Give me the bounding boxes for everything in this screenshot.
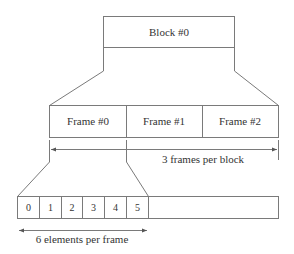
element-2: 2 [70,202,75,213]
elements-strip: 0 1 2 3 4 5 [18,197,279,219]
frame-label-0: Frame #0 [67,115,109,127]
block-label: Block #0 [149,26,190,38]
element-3: 3 [91,202,96,213]
frames-per-block-dimension: 3 frames per block [50,140,279,165]
frame-expansion-lines [18,140,149,197]
frames-per-block-label: 3 frames per block [162,153,245,165]
element-4: 4 [113,202,118,213]
frames-row: Frame #0 Frame #1 Frame #2 [50,106,279,138]
elements-per-frame-dimension: 6 elements per frame [19,231,147,246]
element-5: 5 [135,202,140,213]
element-0: 0 [26,202,31,213]
block-expansion-lines [50,48,279,106]
frame-label-1: Frame #1 [143,115,185,127]
elements-per-frame-label: 6 elements per frame [36,233,129,245]
frame-label-2: Frame #2 [219,115,261,127]
block-frame-element-diagram: Block #0 Frame #0 Frame #1 Frame #2 3 fr… [0,0,294,254]
element-1: 1 [48,202,53,213]
block-box: Block #0 [104,17,235,48]
